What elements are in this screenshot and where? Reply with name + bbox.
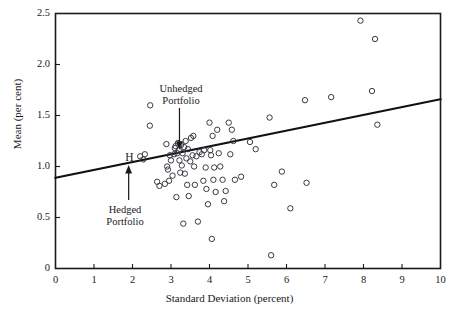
x-axis-title: Standard Deviation (percent) [0, 292, 459, 304]
x-tick-label: 6 [272, 274, 302, 285]
x-tick-label: 9 [387, 274, 417, 285]
plot-frame [56, 14, 441, 269]
y-tick-label: 2.5 [14, 7, 50, 18]
annotation-hedged-line2: Portfolio [82, 216, 168, 228]
annotation-unhedged-line2: Portfolio [138, 95, 224, 107]
scatter-points [138, 18, 381, 258]
x-tick-label: 1 [79, 274, 109, 285]
annotation-unhedged-line1: Unhedged [138, 83, 224, 95]
x-tick-label: 7 [310, 274, 340, 285]
x-tick-label: 4 [195, 274, 225, 285]
regression-line [56, 99, 441, 178]
x-tick-label: 8 [349, 274, 379, 285]
x-tick-label: 5 [233, 274, 263, 285]
y-axis-title: Mean (per cent) [11, 59, 23, 169]
plot-canvas [0, 0, 459, 318]
scatter-plot-figure: 00.51.01.52.02.5 012345678910 Standard D… [0, 0, 459, 318]
x-tick-label: 2 [118, 274, 148, 285]
x-tick-label: 10 [426, 274, 456, 285]
annotation-hedged-line1: Hedged [82, 204, 168, 216]
annotation-unhedged-portfolio: Unhedged Portfolio [138, 83, 224, 106]
annotation-hedged-portfolio: Hedged Portfolio [82, 204, 168, 227]
y-tick-label: 0.5 [14, 211, 50, 222]
y-tick-label: 0 [14, 262, 50, 273]
x-tick-label: 0 [41, 274, 71, 285]
x-tick-label: 3 [156, 274, 186, 285]
hedged-portfolio-marker-label: H [125, 151, 133, 163]
